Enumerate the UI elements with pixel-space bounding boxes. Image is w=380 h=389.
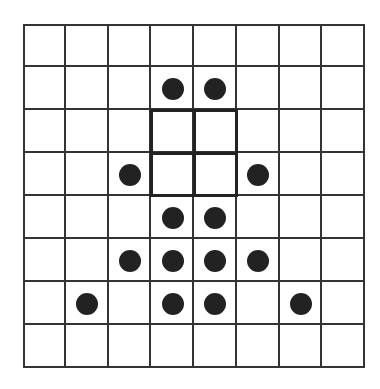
grid-cell (109, 325, 152, 368)
grid-cell (66, 110, 109, 153)
grid-cell (322, 282, 365, 325)
grid-cell (322, 153, 365, 196)
grid-cell (194, 24, 237, 67)
grid-cell (237, 282, 280, 325)
grid-cell (109, 196, 152, 239)
grid-cell (237, 24, 280, 67)
dot-marker (290, 293, 312, 315)
grid-cell (151, 325, 194, 368)
grid-cell (322, 239, 365, 282)
grid-cell (280, 67, 323, 110)
grid-cell (66, 325, 109, 368)
grid-cell (237, 67, 280, 110)
grid-cell (109, 282, 152, 325)
dot-marker (162, 250, 184, 272)
grid-cell (23, 196, 66, 239)
grid-cell (322, 67, 365, 110)
grid-cell (280, 325, 323, 368)
grid-cell (151, 24, 194, 67)
grid-cell (66, 67, 109, 110)
grid-cell (322, 110, 365, 153)
dot-marker (247, 164, 269, 186)
grid-board (23, 24, 365, 368)
grid-cell (280, 196, 323, 239)
grid-cell (322, 196, 365, 239)
grid-cell (194, 153, 237, 196)
dot-marker (247, 250, 269, 272)
grid-cell (237, 110, 280, 153)
grid-cell (280, 110, 323, 153)
grid-cell (109, 67, 152, 110)
grid-cell (151, 153, 194, 196)
dot-marker (162, 207, 184, 229)
grid-cell (280, 24, 323, 67)
grid-cell (322, 24, 365, 67)
grid-cell (322, 325, 365, 368)
grid-cell (23, 24, 66, 67)
grid-cell (109, 110, 152, 153)
grid-cell (151, 110, 194, 153)
grid-cell (66, 24, 109, 67)
grid-cell (194, 110, 237, 153)
grid-cell (23, 282, 66, 325)
dot-marker (119, 164, 141, 186)
grid-cell (280, 239, 323, 282)
grid-cell (109, 24, 152, 67)
grid-cell (280, 153, 323, 196)
grid-cell (23, 110, 66, 153)
dot-marker (204, 293, 226, 315)
grid-cell (23, 67, 66, 110)
dot-marker (204, 78, 226, 100)
grid-cell (66, 239, 109, 282)
grid-cell (237, 325, 280, 368)
grid-cell (194, 325, 237, 368)
dot-marker (162, 78, 184, 100)
dot-marker (119, 250, 141, 272)
grid-cell (66, 153, 109, 196)
dot-marker (76, 293, 98, 315)
dot-marker (204, 250, 226, 272)
dot-marker (162, 293, 184, 315)
grid-cell (66, 196, 109, 239)
grid-cell (237, 196, 280, 239)
grid-cell (23, 325, 66, 368)
dot-marker (204, 207, 226, 229)
grid-cell (23, 239, 66, 282)
grid-cell (23, 153, 66, 196)
